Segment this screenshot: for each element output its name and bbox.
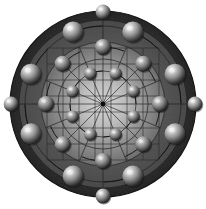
sphere-specular-highlight	[25, 128, 31, 133]
sphere-specular-highlight	[130, 88, 134, 91]
sphere-node	[96, 189, 111, 204]
sphere-node	[96, 5, 111, 20]
sphere-node	[135, 56, 151, 72]
radial-sphere-lattice-diagram	[0, 0, 206, 209]
sphere-node	[127, 85, 139, 97]
sphere-node	[95, 39, 111, 55]
sphere-specular-highlight	[69, 113, 73, 116]
sphere-specular-highlight	[139, 59, 144, 63]
sphere-specular-highlight	[58, 59, 63, 63]
sphere-node	[165, 64, 186, 85]
sphere-specular-highlight	[139, 140, 144, 144]
sphere-node	[122, 166, 143, 187]
sphere-specular-highlight	[112, 131, 116, 134]
sphere-node	[109, 67, 121, 79]
sphere-node	[109, 128, 121, 140]
sphere-specular-highlight	[169, 128, 175, 133]
figure-root	[0, 0, 206, 209]
sphere-specular-highlight	[41, 99, 46, 103]
sphere-node	[188, 97, 203, 112]
sphere-specular-highlight	[58, 140, 63, 144]
sphere-specular-highlight	[67, 170, 73, 175]
sphere-specular-highlight	[7, 100, 11, 104]
sphere-specular-highlight	[87, 131, 91, 134]
sphere-specular-highlight	[98, 42, 103, 46]
sphere-node	[84, 128, 96, 140]
sphere-specular-highlight	[155, 99, 160, 103]
sphere-node	[152, 96, 168, 112]
sphere-specular-highlight	[98, 156, 103, 160]
sphere-specular-highlight	[112, 70, 116, 73]
sphere-node	[63, 166, 84, 187]
sphere-node	[55, 56, 71, 72]
sphere-specular-highlight	[99, 192, 103, 196]
sphere-node	[66, 110, 78, 122]
sphere-specular-highlight	[69, 88, 73, 91]
sphere-specular-highlight	[67, 26, 73, 31]
sphere-node	[66, 85, 78, 97]
sphere-node	[38, 96, 54, 112]
sphere-specular-highlight	[191, 100, 195, 104]
sphere-specular-highlight	[87, 70, 91, 73]
sphere-node	[122, 21, 143, 42]
sphere-node	[135, 136, 151, 152]
sphere-specular-highlight	[127, 26, 133, 31]
sphere-node	[127, 110, 139, 122]
sphere-specular-highlight	[130, 113, 134, 116]
sphere-node	[63, 21, 84, 42]
sphere-specular-highlight	[99, 8, 103, 12]
sphere-node	[55, 136, 71, 152]
sphere-specular-highlight	[25, 68, 31, 73]
sphere-node	[84, 67, 96, 79]
sphere-node	[20, 64, 41, 85]
sphere-node	[95, 153, 111, 169]
sphere-specular-highlight	[169, 68, 175, 73]
sphere-specular-highlight	[127, 170, 133, 175]
sphere-node	[20, 123, 41, 144]
sphere-node	[4, 97, 19, 112]
sphere-node	[165, 123, 186, 144]
center-dot	[101, 102, 106, 107]
